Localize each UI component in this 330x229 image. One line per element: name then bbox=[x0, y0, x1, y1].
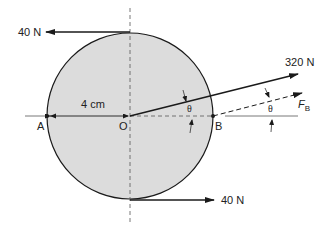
force-fb-label: FB bbox=[298, 99, 310, 113]
force-320-label: 320 N bbox=[285, 57, 314, 68]
point-b-label: B bbox=[215, 121, 222, 132]
radius-label: 4 cm bbox=[81, 99, 105, 110]
angle-1-label: θ bbox=[187, 104, 192, 114]
point-a-dot bbox=[45, 114, 49, 118]
force-fb-arrow bbox=[213, 93, 302, 116]
angle-2-tick-bottom bbox=[271, 120, 272, 132]
angle-2-tick-top bbox=[265, 88, 269, 97]
point-o-label: O bbox=[119, 121, 128, 132]
force-top-label: 40 N bbox=[18, 27, 41, 38]
point-a-label: A bbox=[37, 121, 44, 132]
angle-2-label: θ bbox=[268, 104, 273, 114]
force-bottom-label: 40 N bbox=[221, 195, 244, 206]
diagram-canvas bbox=[0, 0, 330, 229]
